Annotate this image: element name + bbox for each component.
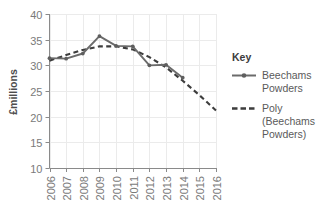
x-axis-tick-label: 2011	[128, 176, 140, 200]
x-axis-tick-label: 2010	[111, 176, 123, 200]
x-axis-tick-label: 2013	[161, 176, 173, 200]
data-point-marker	[98, 34, 102, 38]
legend-label-poly-line3: Powders)	[262, 128, 306, 140]
y-axis-tick-label: 10	[30, 163, 42, 175]
x-axis-tick-labels: 2006200720082009201020112012201320142015…	[45, 176, 223, 200]
y-axis-tick-label: 25	[30, 86, 42, 98]
legend-title: Key	[232, 51, 251, 63]
line-chart: 10152025303540 2006200720082009201020112…	[0, 0, 320, 212]
y-axis-tick-label: 20	[30, 112, 42, 124]
data-point-marker	[48, 56, 52, 60]
legend-label-poly-line2: (Beechams	[262, 115, 315, 127]
legend-swatch-marker-beechams-powders	[242, 73, 247, 78]
data-point-marker	[148, 63, 152, 67]
x-axis-tick-label: 2016	[211, 176, 223, 200]
x-axis-tick-label: 2006	[45, 176, 57, 200]
data-point-marker	[64, 57, 68, 61]
data-point-marker	[181, 76, 185, 80]
legend-label-beechams-powders-line2: Powders	[262, 82, 303, 94]
y-axis-tick-label: 30	[30, 60, 42, 72]
legend-label-beechams-powders-line1: Beechams	[262, 69, 312, 81]
data-point-marker	[114, 44, 118, 48]
data-point-marker	[81, 52, 85, 56]
y-axis-tick-label: 35	[30, 35, 42, 47]
x-axis-tick-label: 2008	[78, 176, 90, 200]
data-point-marker	[131, 44, 135, 48]
x-axis-tick-label: 2009	[94, 176, 106, 200]
chart-container: 10152025303540 2006200720082009201020112…	[0, 0, 320, 212]
x-axis-tick-label: 2014	[178, 176, 190, 200]
legend-label-poly-line1: Poly	[262, 102, 283, 114]
data-point-marker	[164, 63, 168, 67]
y-axis-tick-label: 15	[30, 137, 42, 149]
x-axis-tick-label: 2007	[61, 176, 73, 200]
y-axis-title: £millions	[7, 69, 19, 115]
y-axis-tick-label: 40	[30, 9, 42, 21]
x-axis-tick-label: 2015	[194, 176, 206, 200]
x-axis-tick-label: 2012	[144, 176, 156, 200]
